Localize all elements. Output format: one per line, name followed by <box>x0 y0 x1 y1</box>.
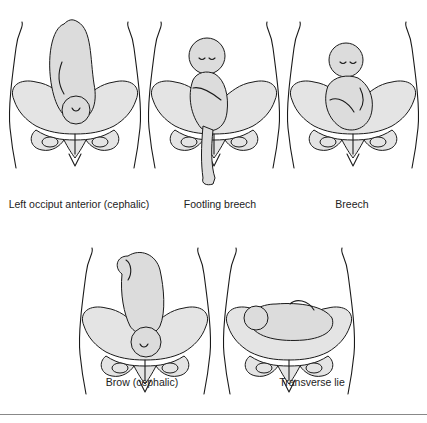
label-left-occiput-anterior: Left occiput anterior (cephalic) <box>4 198 154 210</box>
label-footling-breech: Footling breech <box>170 198 270 210</box>
pelvis-illustration-breech <box>284 8 422 178</box>
label-breech: Breech <box>322 198 382 210</box>
label-transverse-lie: Transverse lie <box>262 376 362 388</box>
pelvis-illustration-footling-breech <box>145 8 283 193</box>
pelvis-illustration-loa <box>6 8 144 178</box>
panel-left-occiput-anterior <box>6 8 144 178</box>
footer-divider <box>0 414 427 415</box>
pelvis-illustration-brow <box>76 234 214 394</box>
panel-brow-cephalic <box>76 234 214 394</box>
pelvis-illustration-transverse <box>220 234 358 394</box>
panel-breech <box>284 8 422 178</box>
label-brow-cephalic: Brow (cephalic) <box>92 376 192 388</box>
panel-transverse-lie <box>220 234 358 394</box>
panel-footling-breech <box>145 8 283 193</box>
